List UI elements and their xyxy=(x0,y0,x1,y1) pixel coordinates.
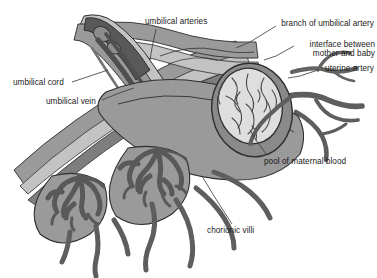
label-text-line2: mother and baby xyxy=(313,49,375,58)
label-umbilical-vein: umbilical vein xyxy=(46,97,96,106)
label-text: uterine artery xyxy=(325,64,374,73)
label-umbilical-cord: umbilical cord xyxy=(13,78,64,87)
label-text: branch of umbilical artery xyxy=(281,19,374,28)
label-uterine-artery: uterine artery xyxy=(321,64,374,73)
label-interface-between-mother-and-baby: interface between mother and baby xyxy=(297,40,375,59)
label-text: umbilical cord xyxy=(13,78,64,87)
label-chorionic-villi: chorionic villi xyxy=(207,226,254,235)
label-umbilical-arteries: umbilical arteries xyxy=(145,17,207,26)
label-text: chorionic villi xyxy=(207,226,254,235)
label-text: umbilical arteries xyxy=(145,17,207,26)
label-text: umbilical vein xyxy=(46,97,96,106)
label-text-line1: interface between xyxy=(310,40,375,49)
label-branch-of-umbilical-artery: branch of umbilical artery xyxy=(279,19,374,28)
diagram-canvas: umbilical arteries branch of umbilical a… xyxy=(0,0,377,278)
label-text: pool of maternal blood xyxy=(264,157,346,166)
label-pool-of-maternal-blood: pool of maternal blood xyxy=(264,157,346,166)
